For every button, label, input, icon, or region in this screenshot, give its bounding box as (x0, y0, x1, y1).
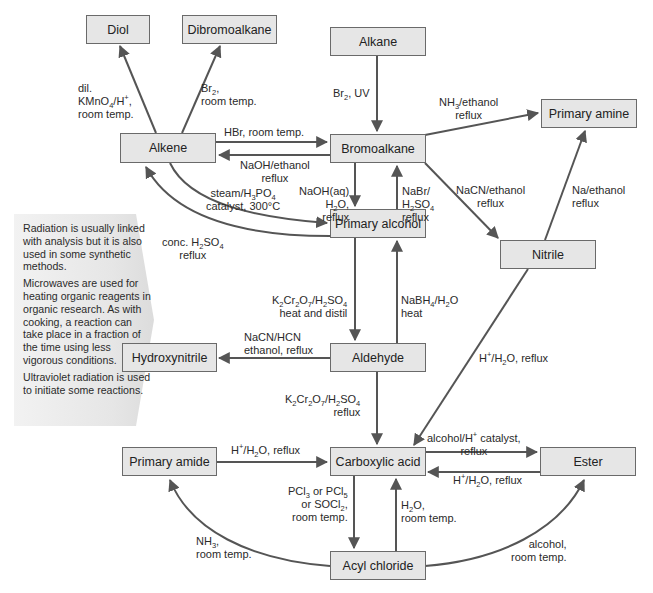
note-paragraph-3: Ultraviolet radiation is used to initiat… (23, 371, 151, 397)
label-alcohol-aldehyde: K2Cr2O7/H2SO4heat and distil (272, 294, 347, 320)
label-ester-acid: H+/H2O, reflux (453, 474, 522, 487)
node-bromoalkane: Bromoalkane (330, 134, 426, 163)
node-alkene: Alkene (120, 133, 216, 163)
node-acyl-chloride: Acyl chloride (330, 551, 426, 580)
node-ester: Ester (540, 447, 636, 476)
node-nitrile: Nitrile (500, 240, 596, 269)
label-bromoalkane-alcohol: NaOH(aq)H2O,reflux (299, 185, 349, 224)
node-alkane: Alkane (330, 27, 426, 56)
label-alkane-bromoalkane: Br2, UV (333, 87, 370, 100)
node-carboxylic-acid: Carboxylic acid (330, 447, 426, 476)
node-hydroxynitrile: Hydroxynitrile (122, 343, 217, 372)
node-primary-amine: Primary amine (541, 99, 637, 128)
label-alcohol-alkene: conc. H2SO4reflux (162, 236, 224, 262)
label-nitrile-amine: Na/ethanolreflux (572, 184, 625, 210)
label-aldehyde-acid: K2Cr2O7/H2SO4reflux (285, 393, 360, 419)
note-paragraph-1: Radiation is usually linked with analysi… (23, 222, 151, 273)
node-aldehyde: Aldehyde (330, 343, 426, 372)
label-bromoalkane-alkene: NaOH/ethanolreflux (240, 159, 310, 185)
reaction-pathway-diagram: Radiation is usually linked with analysi… (0, 0, 653, 593)
label-aldehyde-alcohol: NaBH4/H2Oheat (401, 294, 458, 320)
label-acylchloride-amide: NH3,room temp. (196, 535, 252, 561)
label-aldehyde-hydroxynitrile: NaCN/HCNethanol, reflux (244, 331, 313, 357)
node-dibromoalkane: Dibromoalkane (182, 15, 277, 44)
label-amide-acid: H+/H2O, reflux (231, 444, 300, 457)
label-alkene-bromoalkane: HBr, room temp. (224, 126, 304, 139)
node-diol: Diol (86, 15, 150, 44)
radiation-note-panel: Radiation is usually linked with analysi… (14, 214, 154, 426)
label-alcohol-bromoalkane: NaBr/H2SO4reflux (402, 185, 434, 224)
label-bromoalkane-nitrile: NaCN/ethanolreflux (456, 184, 525, 210)
label-bromoalkane-amine: NH3/ethanolreflux (439, 96, 498, 122)
label-acylchloride-acid: H2O,room temp. (401, 499, 457, 525)
node-primary-amide: Primary amide (122, 447, 217, 476)
label-acylchloride-ester: alcohol,room temp. (511, 538, 567, 564)
label-alkene-dibromoalkane: Br2,room temp. (201, 82, 257, 108)
label-nitrile-acid: H+/H2O, reflux (479, 352, 548, 365)
label-alkene-alcohol: steam/H3PO4catalyst, 300°C (206, 187, 280, 213)
label-acid-acylchloride: PCl3 or PCl5or SOCl2,room temp. (288, 485, 348, 524)
label-acid-ester: alcohol/H+ catalyst,reflux (427, 432, 521, 458)
label-alkene-diol: dil.KMnO4/H+,room temp. (78, 82, 134, 121)
